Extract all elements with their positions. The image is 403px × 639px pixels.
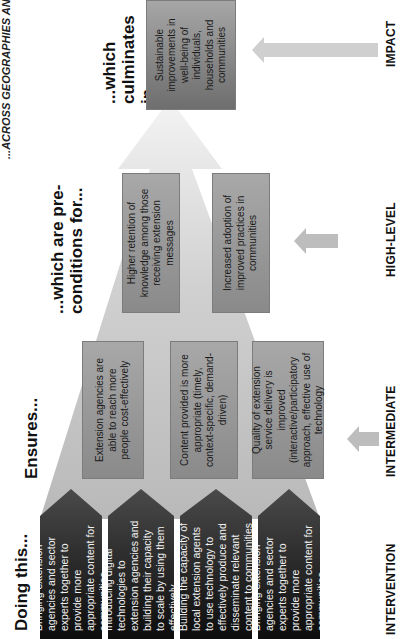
arrow-up-impact-icon (250, 35, 378, 65)
label-intermediate: INTERMEDIATE (384, 385, 398, 477)
header-preconditions: ...which are pre-conditions for... (48, 164, 86, 314)
label-high-level: HIGH-LEVEL (384, 202, 398, 277)
intervention-block-2: Introducing digital technologies to exte… (108, 489, 174, 639)
high-level-box-2: Increased adoption of improved practices… (212, 173, 270, 313)
header-doing-this: Doing this... (12, 491, 31, 631)
intermediate-text: Extension agencies are able to reach mor… (94, 352, 132, 468)
high-level-text: Increased adoption of improved practices… (222, 184, 260, 302)
intermediate-text: Quality of extension service delivery is… (251, 352, 326, 468)
arrow-up-high-level-icon (292, 226, 338, 256)
intervention-block-4: Bringing extension agencies and sector e… (258, 489, 320, 639)
intermediate-box-3: Quality of extension service delivery is… (252, 341, 324, 479)
intervention-text: Bringing extension agencies and sector e… (250, 519, 328, 631)
impact-text: Sustainable improvements in well-being o… (154, 11, 229, 99)
label-impact: IMPACT (384, 21, 398, 67)
intermediate-box-1: Extension agencies are able to reach mor… (82, 341, 144, 479)
theory-of-change-diagram: ...ACROSS GEOGRAPHIES AND SECTORS Doing … (0, 0, 403, 639)
impact-box: Sustainable improvements in well-being o… (146, 0, 236, 110)
intervention-text: Bringing extension agencies and sector e… (32, 519, 110, 631)
label-intervention: INTERVENTION (384, 543, 398, 635)
intervention-text: Introducing digital technologies to exte… (102, 519, 180, 631)
intervention-block-1: Bringing extension agencies and sector e… (40, 489, 102, 639)
intermediate-box-2: Content provided is more appropriate (ti… (170, 341, 238, 479)
diagram-title: ...ACROSS GEOGRAPHIES AND SECTORS (0, 0, 12, 159)
arrow-up-intermediate-icon (345, 424, 379, 454)
intermediate-text: Content provided is more appropriate (ti… (179, 352, 229, 468)
high-level-text: Higher retention of knowledge among thos… (126, 184, 176, 302)
header-ensures: Ensures... (22, 339, 41, 479)
intervention-block-3: Building the capacity of local extension… (180, 489, 252, 639)
high-level-box-1: Higher retention of knowledge among thos… (122, 173, 180, 313)
intervention-text: Building the capacity of local extension… (177, 519, 255, 631)
